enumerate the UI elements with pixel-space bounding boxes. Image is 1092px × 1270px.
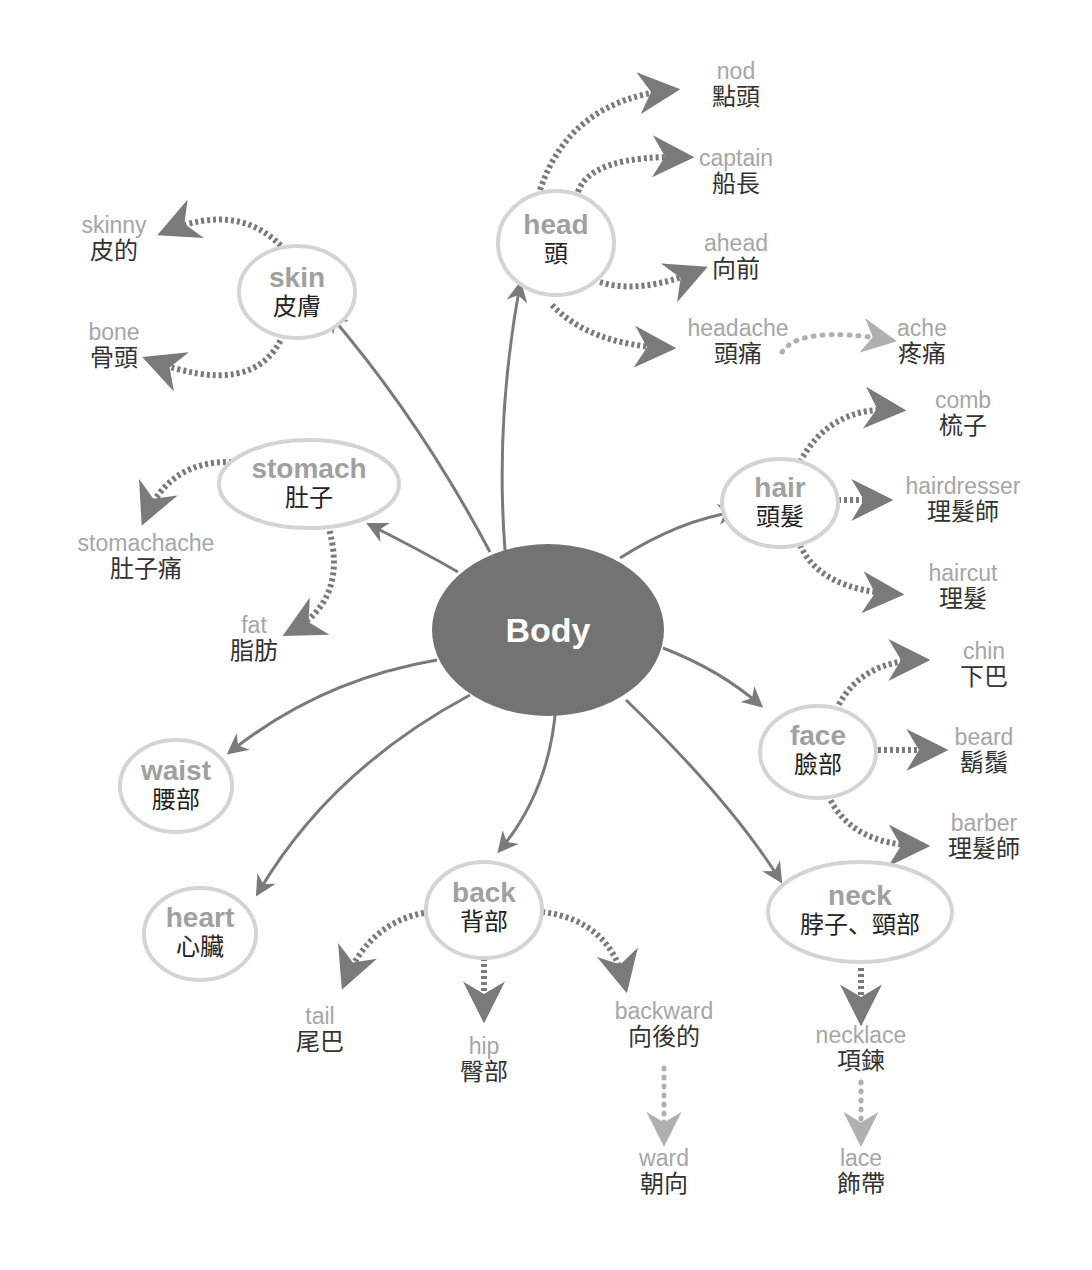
leaf-zh: 飾帶 bbox=[837, 1171, 885, 1199]
node-neck[interactable]: neck脖子、頸部 bbox=[800, 880, 920, 940]
leaf-en: fat bbox=[230, 612, 278, 638]
leaf-zh: 疼痛 bbox=[897, 341, 947, 369]
leaf-zh: 梳子 bbox=[935, 413, 991, 441]
node-head-zh: 頭 bbox=[523, 241, 588, 269]
leaf-captain: captain船長 bbox=[699, 145, 773, 199]
leaf-zh: 臀部 bbox=[460, 1059, 508, 1087]
node-back[interactable]: back背部 bbox=[452, 877, 516, 937]
center-label: Body bbox=[506, 611, 591, 650]
link-back-backward bbox=[542, 912, 625, 985]
link-body-neck bbox=[626, 700, 780, 880]
leaf-en: ward bbox=[639, 1145, 689, 1171]
leaf-zh: 朝向 bbox=[639, 1171, 689, 1199]
link-body-head bbox=[502, 285, 520, 550]
node-skin-en: skin bbox=[269, 262, 325, 294]
leaf-hairdresser: hairdresser理髮師 bbox=[905, 473, 1020, 527]
leaf-zh: 肚子痛 bbox=[78, 556, 215, 584]
node-waist-en: waist bbox=[141, 755, 211, 787]
leaf-hip: hip臀部 bbox=[460, 1033, 508, 1087]
leaf-ahead: ahead向前 bbox=[704, 230, 768, 284]
node-back-zh: 背部 bbox=[452, 909, 516, 937]
leaf-en: hip bbox=[460, 1033, 508, 1059]
leaf-en: ache bbox=[897, 315, 947, 341]
link-body-waist bbox=[230, 660, 437, 752]
leaf-comb: comb梳子 bbox=[935, 387, 991, 441]
leaf-en: bone bbox=[88, 319, 139, 345]
leaf-en: hairdresser bbox=[905, 473, 1020, 499]
node-hair-en: hair bbox=[754, 472, 805, 504]
leaf-zh: 理髮 bbox=[928, 586, 997, 614]
link-body-face bbox=[663, 648, 760, 705]
node-heart-zh: 心臟 bbox=[166, 934, 234, 962]
link-back-tail bbox=[345, 912, 430, 982]
node-stomach[interactable]: stomach肚子 bbox=[251, 453, 366, 513]
node-hair[interactable]: hair頭髮 bbox=[754, 472, 805, 532]
node-waist-zh: 腰部 bbox=[141, 787, 211, 815]
node-back-en: back bbox=[452, 877, 516, 909]
leaf-en: lace bbox=[837, 1145, 885, 1171]
leaf-en: necklace bbox=[816, 1022, 907, 1048]
leaf-en: ahead bbox=[704, 230, 768, 256]
leaf-en: chin bbox=[960, 638, 1008, 664]
leaf-ward: ward朝向 bbox=[639, 1145, 689, 1199]
link-head-captain bbox=[578, 157, 686, 192]
node-face[interactable]: face臉部 bbox=[790, 720, 846, 780]
leaf-zh: 皮的 bbox=[81, 238, 146, 266]
leaf-necklace: necklace項鍊 bbox=[816, 1022, 907, 1076]
node-face-en: face bbox=[790, 720, 846, 752]
node-neck-en: neck bbox=[800, 880, 920, 912]
node-skin[interactable]: skin皮膚 bbox=[269, 262, 325, 322]
link-face-barber bbox=[828, 795, 922, 846]
leaf-beard: beard鬍鬚 bbox=[955, 724, 1014, 778]
link-hair-comb bbox=[800, 410, 898, 462]
leaf-zh: 下巴 bbox=[960, 664, 1008, 692]
link-body-heart bbox=[258, 695, 470, 893]
link-body-back bbox=[500, 705, 556, 850]
link-headache-ache bbox=[782, 335, 890, 352]
link-stomach-fat bbox=[290, 525, 334, 632]
leaf-bone: bone骨頭 bbox=[88, 319, 139, 373]
link-head-nod bbox=[540, 90, 672, 190]
leaf-zh: 理髮師 bbox=[948, 836, 1020, 864]
leaf-skinny: skinny皮的 bbox=[81, 212, 146, 266]
leaf-nod: nod點頭 bbox=[712, 58, 760, 112]
leaf-en: beard bbox=[955, 724, 1014, 750]
leaf-en: stomachache bbox=[78, 530, 215, 556]
node-heart-en: heart bbox=[166, 902, 234, 934]
leaf-zh: 鬍鬚 bbox=[955, 750, 1014, 778]
leaf-chin: chin下巴 bbox=[960, 638, 1008, 692]
leaf-en: haircut bbox=[928, 560, 997, 586]
node-waist[interactable]: waist腰部 bbox=[141, 755, 211, 815]
leaf-stomachache: stomachache肚子痛 bbox=[78, 530, 215, 584]
leaf-zh: 脂肪 bbox=[230, 638, 278, 666]
link-skin-bone bbox=[150, 335, 283, 375]
leaf-zh: 點頭 bbox=[712, 84, 760, 112]
leaf-lace: lace飾帶 bbox=[837, 1145, 885, 1199]
node-head[interactable]: head頭 bbox=[523, 209, 588, 269]
node-hair-zh: 頭髮 bbox=[754, 504, 805, 532]
leaf-en: nod bbox=[712, 58, 760, 84]
leaf-backward: backward向後的 bbox=[615, 998, 713, 1052]
node-stomach-zh: 肚子 bbox=[251, 485, 366, 513]
link-head-headache bbox=[552, 305, 668, 348]
leaf-zh: 頭痛 bbox=[687, 341, 788, 369]
node-face-zh: 臉部 bbox=[790, 752, 846, 780]
leaf-zh: 骨頭 bbox=[88, 345, 139, 373]
link-body-stomach bbox=[370, 525, 458, 572]
link-head-ahead bbox=[600, 270, 700, 286]
node-stomach-en: stomach bbox=[251, 453, 366, 485]
link-body-hair bbox=[620, 512, 735, 558]
leaf-zh: 向前 bbox=[704, 256, 768, 284]
leaf-en: tail bbox=[296, 1003, 344, 1029]
leaf-zh: 項鍊 bbox=[816, 1048, 907, 1076]
leaf-en: captain bbox=[699, 145, 773, 171]
leaf-zh: 船長 bbox=[699, 171, 773, 199]
leaf-haircut: haircut理髮 bbox=[928, 560, 997, 614]
leaf-tail: tail尾巴 bbox=[296, 1003, 344, 1057]
leaf-zh: 尾巴 bbox=[296, 1029, 344, 1057]
leaf-en: comb bbox=[935, 387, 991, 413]
leaf-fat: fat脂肪 bbox=[230, 612, 278, 666]
node-heart[interactable]: heart心臟 bbox=[166, 902, 234, 962]
link-hair-haircut bbox=[800, 545, 896, 594]
leaf-en: barber bbox=[948, 810, 1020, 836]
